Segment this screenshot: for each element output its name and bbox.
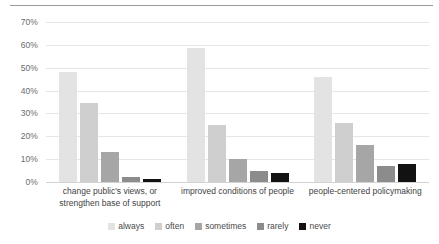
legend-item-sometimes[interactable]: sometimes — [195, 221, 246, 231]
bar-always[interactable] — [314, 77, 332, 182]
bar-often[interactable] — [80, 103, 98, 182]
category-label: people-centered policymaking — [301, 186, 429, 209]
legend-swatch-icon — [257, 223, 264, 230]
category-label: change public's views, or strengthen bas… — [46, 186, 174, 209]
legend-label: sometimes — [205, 221, 246, 231]
bar-group — [46, 22, 174, 182]
bar-never[interactable] — [143, 179, 161, 182]
bar-never[interactable] — [271, 173, 289, 182]
y-tick-label: 50% — [21, 63, 38, 73]
legend-swatch-icon — [195, 223, 202, 230]
legend-swatch-icon — [108, 223, 115, 230]
legend-label: rarely — [267, 221, 288, 231]
legend-swatch-icon — [155, 223, 162, 230]
legend-item-never[interactable]: never — [299, 221, 330, 231]
y-tick-label: 30% — [21, 108, 38, 118]
bars-container — [187, 22, 289, 182]
y-tick-label: 20% — [21, 131, 38, 141]
legend-label: often — [165, 221, 184, 231]
chart-legend: alwaysoftensometimesrarelynever — [0, 221, 439, 231]
gridline-0pct — [46, 182, 429, 183]
y-tick-label: 70% — [21, 17, 38, 27]
bar-sometimes[interactable] — [229, 159, 247, 182]
bars-container — [59, 22, 161, 182]
bar-always[interactable] — [187, 48, 205, 182]
bar-sometimes[interactable] — [356, 145, 374, 182]
plot-area — [46, 22, 429, 182]
legend-label: never — [309, 221, 330, 231]
legend-item-often[interactable]: often — [155, 221, 184, 231]
bar-often[interactable] — [208, 125, 226, 182]
bar-sometimes[interactable] — [101, 152, 119, 182]
y-tick-label: 40% — [21, 86, 38, 96]
category-label: improved conditions of people — [174, 186, 302, 209]
bar-rarely[interactable] — [250, 171, 268, 182]
grouped-bar-chart: 0%10%20%30%40%50%60%70% change public's … — [0, 0, 439, 244]
legend-item-rarely[interactable]: rarely — [257, 221, 288, 231]
legend-item-always[interactable]: always — [108, 221, 144, 231]
bar-rarely[interactable] — [377, 166, 395, 182]
legend-swatch-icon — [299, 223, 306, 230]
y-axis-tick-labels: 0%10%20%30%40%50%60%70% — [0, 22, 42, 182]
x-axis-category-labels: change public's views, or strengthen bas… — [46, 186, 429, 209]
bar-rarely[interactable] — [122, 177, 140, 182]
y-tick-label: 0% — [26, 177, 39, 187]
bar-never[interactable] — [398, 164, 416, 182]
bar-often[interactable] — [335, 123, 353, 182]
bar-groups — [46, 22, 429, 182]
bars-container — [314, 22, 416, 182]
y-tick-label: 10% — [21, 154, 38, 164]
bar-group — [174, 22, 302, 182]
top-rule-divider — [10, 5, 433, 6]
bar-group — [301, 22, 429, 182]
legend-label: always — [118, 221, 144, 231]
bar-always[interactable] — [59, 72, 77, 182]
y-tick-label: 60% — [21, 40, 38, 50]
